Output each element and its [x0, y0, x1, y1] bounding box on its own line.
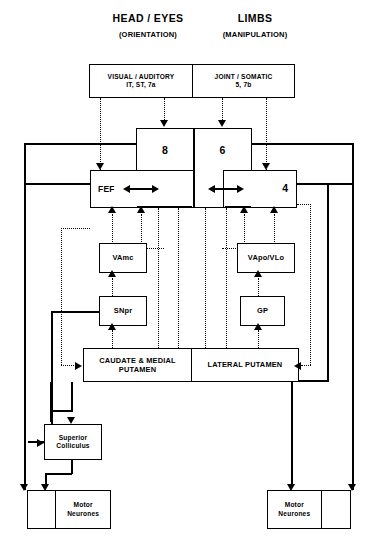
- striatum-caudate-line1: CAUDATE & MEDIAL: [99, 356, 176, 365]
- thalamus-vapovlo-box: VApo/VLo: [237, 243, 295, 273]
- fef-feedback-vertical: [61, 228, 62, 365]
- sensory-projection-2: [164, 98, 165, 122]
- sensory-association-box: VISUAL / AUDITORY IT, ST, 7a JOINT / SOM…: [89, 64, 295, 98]
- motor-neurones-left-empty-cell: [28, 491, 55, 528]
- striatum-to-snpr-head: [108, 323, 116, 330]
- sensory-joint-somatic-line2: 5, 7b: [235, 81, 251, 89]
- striatum-lateral-putamen-label: LATERAL PUTAMEN: [208, 360, 283, 369]
- sensory-projection-1-head: [96, 163, 104, 170]
- motor-neurones-right-empty-cell: [321, 491, 350, 528]
- sensory-projection-3: [222, 98, 223, 122]
- corticostriatal-right-2: [226, 208, 227, 350]
- snpr-to-colliculus-head: [37, 439, 44, 447]
- fef-arrow-shaft: [129, 188, 153, 190]
- title-head-eyes: HEAD / EYES: [88, 12, 208, 24]
- left-rail-second: [24, 183, 92, 185]
- fef-feedback-top: [61, 228, 90, 229]
- gp-to-vapo-head: [254, 270, 262, 277]
- striatum-elbow-v: [71, 382, 73, 412]
- sensory-projection-1: [100, 98, 101, 170]
- cortex-area-4-label: 4: [282, 182, 288, 195]
- motor-neurones-left-label-cell: Motor Neurones: [55, 491, 110, 528]
- subtitle-manipulation: (MANIPULATION): [200, 30, 310, 39]
- sensory-visual-auditory-line2: IT, ST, 7a: [126, 81, 155, 89]
- thalamocortical-vapo-1-head: [240, 206, 248, 213]
- sensory-projection-4: [266, 98, 267, 170]
- sensory-visual-auditory-line1: VISUAL / AUDITORY: [108, 73, 175, 81]
- superior-colliculus-box: Superior Colliculus: [44, 424, 102, 460]
- snpr-to-vamc-head: [108, 270, 116, 277]
- motor-neurones-left-head: [41, 484, 49, 491]
- area4-feedback-vertical: [310, 204, 311, 365]
- area4-feedback-bottom: [301, 365, 311, 366]
- motor-neurones-right-box: Motor Neurones: [267, 490, 351, 529]
- right-rail-outer-vertical: [352, 143, 354, 490]
- thalamocortical-vamc-2-head: [137, 206, 145, 213]
- striatum-elbow-h: [50, 410, 72, 412]
- motor-neurones-left-line1: Motor: [74, 501, 93, 509]
- motor-neurones-left-line2: Neurones: [67, 510, 99, 518]
- corticostriatal-left-1: [158, 208, 159, 350]
- fef-bottom-seg: [137, 206, 192, 208]
- motor-neurones-right-head: [287, 484, 295, 491]
- right-rail-second: [296, 183, 353, 185]
- left-rail-outer-head: [20, 484, 28, 491]
- gp-label: GP: [257, 306, 268, 315]
- colliculus-output-h: [45, 473, 72, 475]
- striatum-caudate-line2: PUTAMEN: [119, 365, 156, 374]
- striatum-box: CAUDATE & MEDIAL PUTAMEN LATERAL PUTAMEN: [83, 348, 299, 382]
- thalamus-vamc-label: VAmc: [112, 253, 133, 262]
- sensory-projection-4-head: [262, 163, 270, 170]
- sensory-projection-2-head: [160, 120, 168, 127]
- cortex-midline-divider: [194, 129, 195, 207]
- thalamocortical-vapo-2: [274, 214, 275, 244]
- cortex-area-6-label: 6: [220, 144, 226, 157]
- thalamocortical-vamc-1-head: [108, 206, 116, 213]
- right-rail-outer-head: [348, 484, 356, 491]
- motor-neurones-left-box: Motor Neurones: [27, 490, 111, 529]
- gp-box: GP: [240, 296, 285, 326]
- thalamocortical-vapo-2-head: [270, 206, 278, 213]
- thalamus-vamc-box: VAmc: [99, 243, 147, 273]
- snpr-box: SNpr: [99, 296, 147, 326]
- diagram-canvas: HEAD / EYES (ORIENTATION) LIMBS (MANIPUL…: [0, 0, 375, 554]
- subtitle-orientation: (ORIENTATION): [88, 30, 208, 39]
- superior-colliculus-line2: Colliculus: [56, 442, 90, 450]
- motor-neurones-right-line2: Neurones: [278, 510, 310, 518]
- colliculus-output-v1: [71, 460, 73, 474]
- snpr-label: SNpr: [114, 306, 132, 315]
- cortex-fef-label: FEF: [98, 184, 115, 195]
- sensory-joint-somatic-line1: JOINT / SOMATIC: [215, 73, 273, 81]
- striatum-lateral-putamen-cell: LATERAL PUTAMEN: [191, 349, 298, 381]
- right-inner-vertical: [327, 183, 329, 381]
- snpr-output-horizontal: [51, 311, 101, 313]
- left-rail-top: [24, 143, 138, 145]
- fef-feedback-bottom: [61, 365, 76, 366]
- fef-arrow-right-head: [152, 185, 159, 193]
- area4-arrow-shaft: [214, 188, 238, 190]
- title-limbs: LIMBS: [200, 12, 310, 24]
- right-inner-elbow-v: [291, 380, 293, 485]
- fef-feedback-head: [75, 362, 82, 370]
- sensory-joint-somatic-cell: JOINT / SOMATIC 5, 7b: [192, 65, 294, 97]
- sensory-visual-auditory-cell: VISUAL / AUDITORY IT, ST, 7a: [90, 65, 192, 97]
- corticostriatal-left-2: [178, 208, 179, 350]
- motor-neurones-right-label-cell: Motor Neurones: [268, 491, 321, 528]
- sensory-projection-3-head: [218, 120, 226, 127]
- striatum-down-seg: [50, 382, 52, 422]
- area4-feedback-top: [297, 204, 311, 205]
- area4-arrow-right-head: [237, 185, 244, 193]
- thalamus-vapovlo-label: VApo/VLo: [248, 253, 284, 262]
- left-rail-outer-vertical: [24, 143, 26, 490]
- area4-feedback-head: [294, 362, 301, 370]
- motor-neurones-right-line1: Motor: [285, 501, 304, 509]
- cortex-area-8-label: 8: [162, 144, 168, 157]
- superior-colliculus-line1: Superior: [59, 434, 88, 442]
- colliculus-input-top-head: [67, 417, 75, 424]
- striatum-to-gp-head: [254, 323, 262, 330]
- corticostriatal-right-1: [205, 208, 206, 350]
- thalamocortical-vamc-1: [112, 214, 113, 244]
- striatum-caudate-medial-cell: CAUDATE & MEDIAL PUTAMEN: [84, 349, 191, 381]
